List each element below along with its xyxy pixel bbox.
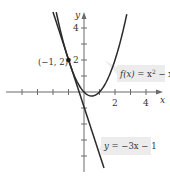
y-axis: 4 2 y [73,10,87,172]
y-tick-label-2: 2 [73,55,79,65]
y-tick-label-4: 4 [73,23,79,33]
x-axis-arrow-icon [156,90,163,95]
svg-text:y = −3x − 1: y = −3x − 1 [103,141,157,151]
tangent-point-label: (−1, 2) [38,57,68,67]
parabola-eq-label: = x [135,69,153,79]
x-axis: 2 4 x [6,89,165,108]
parabola-tail-label: − x [156,69,170,79]
tangent-line [53,12,104,168]
line-eq-label: = −3x − 1 [109,141,157,151]
parabola-fn-label: f(x) [119,69,135,79]
tangent-line-graph: 2 4 x 4 2 y f(x) = x2 − x y = −3x − 1 [0,0,170,176]
x-tick-label-2: 2 [112,98,118,108]
y-axis-arrow-icon [82,12,87,19]
x-axis-label: x [160,95,165,105]
svg-text:f(x) = x2 − x: f(x) = x2 − x [119,68,170,79]
y-axis-label: y [74,10,81,20]
line-callout: y = −3x − 1 [98,137,157,155]
x-tick-label-4: 4 [143,98,149,108]
